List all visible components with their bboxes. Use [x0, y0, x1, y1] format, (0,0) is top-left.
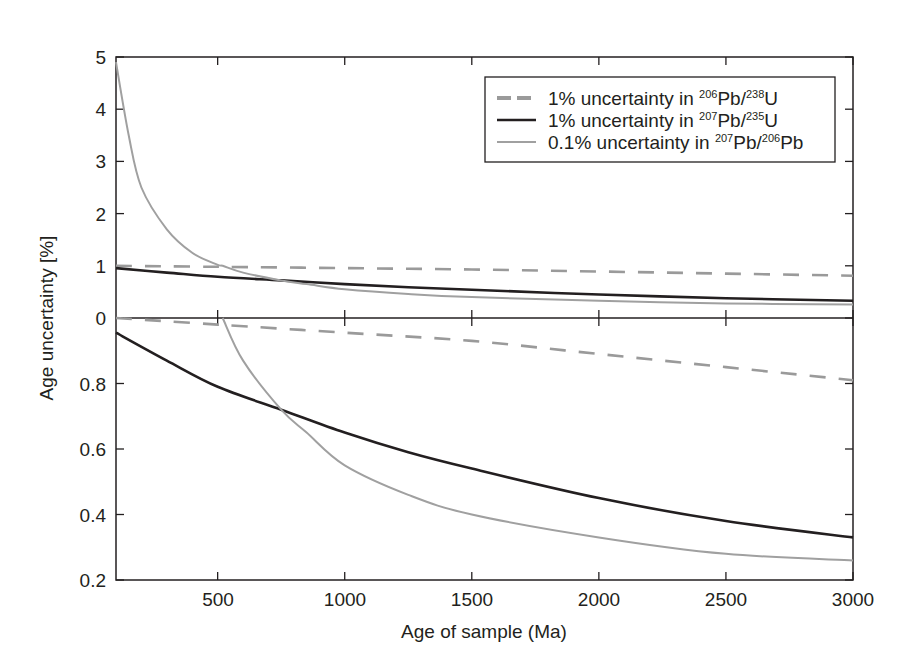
y-tick-label: 0	[95, 308, 106, 329]
y-tick-label: 0.4	[80, 505, 107, 526]
series-line-lower-0-1-uncertainty-in-207pb-206pb	[223, 318, 853, 560]
y-tick-label: 0.6	[80, 439, 106, 460]
x-tick-label: 1000	[324, 589, 366, 610]
y-axis-title: Age uncertainty [%]	[36, 236, 57, 401]
legend: 1% uncertainty in 206Pb/238U 1% uncertai…	[485, 77, 835, 162]
x-tick-labels: 500 1000 1500 2000 2500 3000	[202, 589, 874, 610]
x-tick-label: 2500	[705, 589, 747, 610]
y-tick-label: 5	[95, 47, 106, 68]
x-tick-label: 500	[202, 589, 234, 610]
y-tick-label: 1	[95, 256, 106, 277]
x-tick-label: 3000	[832, 589, 874, 610]
y-tick-label: 0.2	[80, 570, 106, 591]
upper-y-tick-labels: 5 4 3 2 1 0	[95, 47, 106, 329]
x-tick-label: 2000	[578, 589, 620, 610]
lower-y-tick-labels: 0.8 0.6 0.4 0.2	[80, 374, 107, 591]
legend-label: 1% uncertainty in 206Pb/238U	[548, 88, 778, 109]
y-tick-label: 4	[95, 99, 106, 120]
x-tick-label: 1500	[451, 589, 493, 610]
legend-label: 1% uncertainty in 207Pb/235U	[548, 110, 778, 131]
series-line-lower-1-uncertainty-in-207pb-235u	[116, 333, 853, 538]
y-tick-label: 3	[95, 151, 106, 172]
y-tick-label: 2	[95, 204, 106, 225]
series-line-upper-1-uncertainty-in-207pb-235u	[116, 268, 853, 301]
y-tick-label: 0.8	[80, 374, 106, 395]
x-axis-title: Age of sample (Ma)	[401, 621, 567, 642]
chart: 500 1000 1500 2000 2500 3000 5 4 3 2 1 0…	[0, 0, 911, 667]
